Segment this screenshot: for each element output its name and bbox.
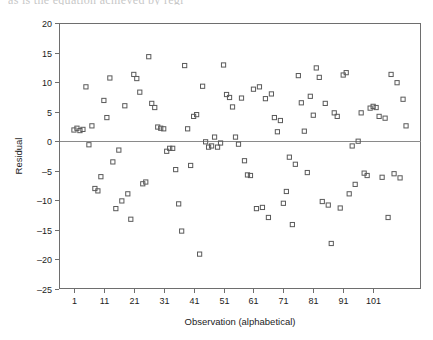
- data-point: [290, 222, 294, 226]
- data-point: [284, 189, 288, 193]
- data-point: [123, 104, 127, 108]
- data-point: [209, 144, 213, 148]
- y-tick-label: –10: [37, 196, 52, 206]
- x-axis-ticks: 1112131415161718191101: [72, 289, 381, 306]
- data-point: [383, 116, 387, 120]
- data-point: [296, 74, 300, 78]
- data-point: [206, 145, 210, 149]
- x-tick-label: 11: [100, 296, 109, 306]
- data-point: [281, 201, 285, 205]
- y-tick-label: –5: [42, 167, 52, 177]
- data-point: [338, 206, 342, 210]
- data-point: [233, 135, 237, 139]
- data-point: [317, 75, 321, 79]
- y-tick-label: –20: [37, 255, 52, 265]
- data-point: [165, 149, 169, 153]
- data-point: [320, 199, 324, 203]
- x-tick-label: 31: [159, 296, 169, 306]
- data-point: [299, 101, 303, 105]
- data-point: [102, 98, 106, 102]
- data-point: [198, 252, 202, 256]
- x-axis-title: Observation (alphabetical): [185, 316, 296, 327]
- x-tick-label: 71: [278, 296, 288, 306]
- x-tick-label: 91: [338, 296, 348, 306]
- data-point: [221, 63, 225, 67]
- data-point: [314, 66, 318, 70]
- data-point: [189, 163, 193, 167]
- data-point: [377, 114, 381, 118]
- data-point: [347, 192, 351, 196]
- y-tick-label: 0: [47, 137, 52, 147]
- data-point: [404, 124, 408, 128]
- data-point: [201, 84, 205, 88]
- data-point: [135, 76, 139, 80]
- x-tick-label: 41: [189, 296, 199, 306]
- data-point: [227, 95, 231, 99]
- data-point: [171, 146, 175, 150]
- data-point: [251, 87, 255, 91]
- data-point: [257, 85, 261, 89]
- data-point: [239, 96, 243, 100]
- data-point: [105, 115, 109, 119]
- data-point: [398, 176, 402, 180]
- y-tick-label: –15: [37, 226, 52, 236]
- data-point: [326, 203, 330, 207]
- y-tick-label: 20: [42, 19, 52, 29]
- data-point: [224, 92, 228, 96]
- data-point: [180, 229, 184, 233]
- data-point: [138, 90, 142, 94]
- data-point: [129, 217, 133, 221]
- data-point: [278, 118, 282, 122]
- data-point: [230, 105, 234, 109]
- data-point: [293, 162, 297, 166]
- data-point: [87, 143, 91, 147]
- scatter-plot-canvas: –25–20–15–10–505101520 11121314151617181…: [0, 0, 433, 340]
- data-point: [108, 76, 112, 80]
- y-tick-label: –25: [37, 285, 52, 295]
- data-point: [386, 215, 390, 219]
- data-point: [174, 168, 178, 172]
- data-point: [212, 135, 216, 139]
- data-point: [311, 113, 315, 117]
- data-point: [153, 105, 157, 109]
- data-point: [305, 170, 309, 174]
- data-point: [120, 199, 124, 203]
- residual-scatter-figure: –25–20–15–10–505101520 11121314151617181…: [0, 0, 433, 340]
- data-point: [266, 215, 270, 219]
- x-tick-label: 1: [72, 296, 77, 306]
- data-point: [168, 146, 172, 150]
- data-point: [186, 127, 190, 131]
- data-point: [254, 207, 258, 211]
- x-tick-label: 101: [366, 296, 381, 306]
- data-point: [117, 148, 121, 152]
- data-point: [99, 175, 103, 179]
- data-point: [90, 124, 94, 128]
- data-point: [302, 129, 306, 133]
- data-point: [260, 205, 264, 209]
- data-point: [359, 111, 363, 115]
- y-tick-label: 5: [47, 108, 52, 118]
- x-tick-label: 61: [248, 296, 258, 306]
- data-point: [81, 127, 85, 131]
- data-point: [111, 160, 115, 164]
- data-point: [380, 175, 384, 179]
- data-point-group: [72, 55, 408, 257]
- data-point: [150, 101, 154, 105]
- data-point: [242, 159, 246, 163]
- data-point: [147, 55, 151, 59]
- data-point: [350, 144, 354, 148]
- x-tick-label: 81: [308, 296, 318, 306]
- data-point: [263, 97, 267, 101]
- y-tick-label: 15: [42, 49, 52, 59]
- x-tick-label: 51: [219, 296, 229, 306]
- data-point: [392, 172, 396, 176]
- data-point: [156, 125, 160, 129]
- data-point: [308, 94, 312, 98]
- data-point: [183, 63, 187, 67]
- data-point: [236, 142, 240, 146]
- data-point: [126, 192, 130, 196]
- data-point: [389, 72, 393, 76]
- y-axis-title: Residual: [13, 138, 24, 175]
- data-point: [287, 155, 291, 159]
- data-point: [84, 85, 88, 89]
